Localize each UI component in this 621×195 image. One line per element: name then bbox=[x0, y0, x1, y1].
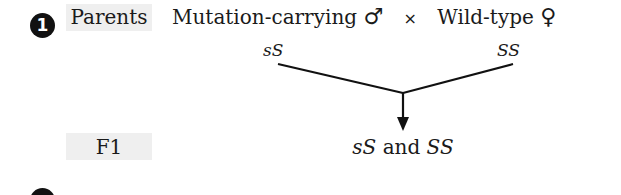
f1-connector: and bbox=[376, 135, 426, 159]
f1-offspring-genotypes: sS and SS bbox=[298, 134, 508, 160]
f1-row-label: F1 bbox=[66, 133, 152, 160]
cross-lines-arrow-icon bbox=[0, 0, 621, 195]
f1-genotype-b: SS bbox=[427, 135, 454, 159]
f1-genotype-a: sS bbox=[352, 135, 376, 159]
